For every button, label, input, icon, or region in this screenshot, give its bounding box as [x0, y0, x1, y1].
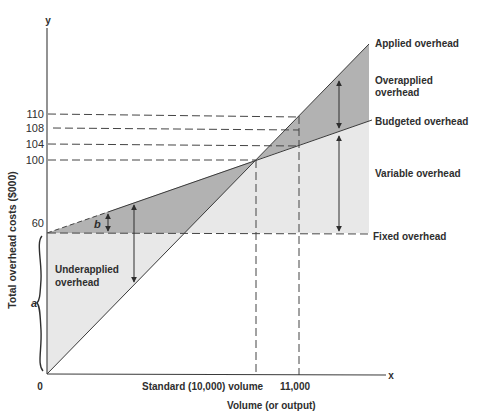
applied-overhead-label: Applied overhead: [375, 38, 459, 49]
y-axis-symbol: y: [45, 15, 51, 26]
y-tick-100: 100: [26, 154, 44, 166]
y-tick-108: 108: [26, 122, 44, 134]
budgeted-overhead-label: Budgeted overhead: [375, 116, 468, 127]
brace-a-label: a: [31, 297, 37, 309]
x-tick-standard-volume: Standard (10,000) volume: [142, 381, 264, 392]
ref-line-110: [48, 114, 299, 117]
y-tick-104: 104: [26, 138, 44, 150]
fixed-overhead-label: Fixed overhead: [373, 231, 446, 242]
ref-line-104: [48, 144, 299, 146]
origin-label: 0: [37, 381, 43, 392]
variable-overhead-label: Variable overhead: [375, 168, 461, 179]
curly-brace-icon: [37, 236, 43, 371]
x-axis-symbol: x: [388, 370, 394, 381]
x-axis-title: Volume (or output): [227, 400, 316, 411]
overapplied-label-line1: Overapplied: [375, 75, 433, 86]
chart-canvas: y x 0 110 108 104 100 60 Total overhead …: [0, 0, 479, 413]
overapplied-label-line2: overhead: [375, 87, 419, 98]
ref-line-108: [53, 128, 299, 130]
y-tick-110: 110: [26, 108, 44, 120]
x-axis: [47, 374, 386, 375]
x-tick-11000: 11,000: [280, 381, 310, 392]
arrow-b-label: b: [94, 218, 101, 230]
y-axis-title: Total overhead costs ($000): [6, 171, 18, 309]
underapplied-label-line2: overhead: [55, 277, 99, 288]
y-tick-60: 60: [32, 217, 44, 229]
underapplied-label-line1: Underapplied: [55, 264, 119, 275]
overhead-cost-chart: y x 0 110 108 104 100 60 Total overhead …: [0, 0, 479, 413]
